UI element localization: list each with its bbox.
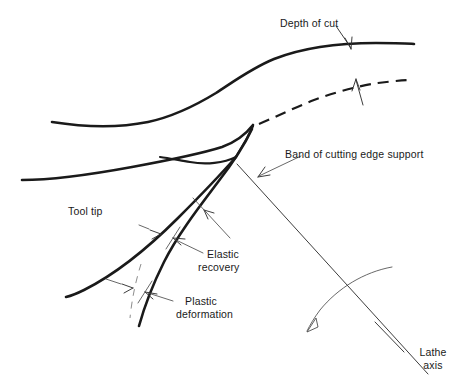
- elastic-recovery-inner-leader-line: [139, 225, 149, 229]
- elastic-recovery-leader-line: [176, 240, 203, 253]
- lathe-axis-line: [237, 164, 428, 374]
- label-lathe-axis-line2: axis: [423, 359, 442, 371]
- machined-surface-leader-line: [356, 80, 363, 105]
- label-elastic-recovery-line1: Elastic: [207, 248, 239, 260]
- label-tool-tip: Tool tip: [68, 205, 102, 217]
- plastic-deformation-inner-leader-line: [106, 279, 121, 284]
- lathe-axis-cross-tick: [375, 322, 404, 352]
- label-plastic-deformation-line1: Plastic: [185, 295, 217, 307]
- plastic-deformation-inner-arrowhead-icon: [122, 284, 133, 293]
- workpiece-machined-surface-dashed: [259, 80, 412, 124]
- elastic-recovery-secondary-leader-line: [206, 212, 230, 238]
- label-depth-of-cut: Depth of cut: [280, 17, 338, 29]
- technical-diagram-figure: Depth of cut Band of cutting edge suppor…: [0, 0, 464, 388]
- rotation-direction-arc: [307, 267, 392, 331]
- plastic-deformation-boundary-dashed: [130, 264, 141, 318]
- label-elastic-recovery-line2: recovery: [198, 261, 240, 273]
- label-plastic-deformation-line2: deformation: [176, 308, 233, 320]
- tool-flank-face-edge: [66, 157, 236, 297]
- rotation-arrowhead-icon: [307, 318, 318, 332]
- label-band-of-cutting-edge-support: Band of cutting edge support: [285, 148, 423, 160]
- diagram-canvas: Depth of cut Band of cutting edge suppor…: [0, 0, 464, 388]
- tool-rake-face-edge: [22, 125, 253, 180]
- label-lathe-axis-line1: Lathe: [419, 346, 446, 358]
- plastic-deformation-leader-line: [148, 293, 173, 301]
- workpiece-uncut-surface-curve: [52, 43, 414, 126]
